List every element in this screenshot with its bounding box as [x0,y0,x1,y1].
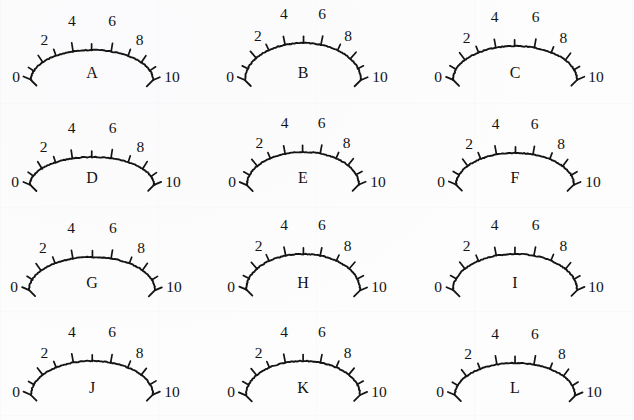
gauge-tick-6 [321,36,323,44]
value-label-6: 6 [319,5,327,22]
value-label-0: 0 [12,383,20,400]
gauge-h[interactable]: 0246810H [211,210,422,315]
value-label-6: 6 [318,114,326,131]
value-label-10: 10 [373,68,389,85]
gauge-tick-2 [252,262,258,268]
value-label-4: 4 [281,114,289,131]
gauge-tick-9 [574,276,580,279]
gauge-tick-3 [478,363,480,369]
gauge-letter-label: I [512,274,517,291]
gauge-tick-4 [71,150,72,158]
value-label-4: 4 [68,12,76,29]
gauge-tick-1 [244,172,250,175]
gauge-dial-j: 0246810J [0,315,211,420]
gauge-g[interactable]: 0246810G [0,210,211,315]
gauge-tick-4 [284,146,286,154]
gauge-tick-7 [128,156,130,162]
gauge-tick-2 [461,370,466,377]
gauge-tick-1 [29,381,35,384]
gauge-dial-e: 0246810E [211,105,422,210]
gauge-b[interactable]: 0246810B [211,0,422,105]
gauge-tick-8 [141,368,146,375]
gauge-tick-1 [450,276,456,279]
value-label-10: 10 [166,278,182,295]
value-label-10: 10 [588,68,604,85]
gauge-dial-a: 0246810A [0,0,211,105]
gauge-c[interactable]: 0246810C [423,0,634,105]
gauge-dial-i: 0246810I [423,210,634,315]
value-label-10: 10 [164,68,180,85]
gauge-letter-label: F [510,169,519,186]
gauge-a[interactable]: 0246810A [0,0,211,105]
gauge-tick-8 [143,263,148,270]
gauge-tick-9 [152,276,158,279]
gauge-tick-7 [338,44,341,50]
value-label-6: 6 [531,8,539,25]
value-label-8: 8 [557,135,565,152]
gauge-tick-7 [130,257,132,263]
gauge-tick-9 [357,171,363,174]
gauge-dial-c: 0246810C [423,0,634,105]
gauge-letter-label: G [86,274,98,291]
gauge-grid: 0246810A0246810B0246810C0246810D0246810E… [0,0,634,420]
value-label-0: 0 [437,173,445,190]
gauge-tick-6 [111,150,112,158]
gauge-tick-2 [38,162,42,169]
gauge-tick-9 [358,66,364,69]
gauge-tick-7 [337,255,340,261]
value-label-4: 4 [281,216,289,233]
gauge-tick-3 [267,255,270,261]
gauge-k[interactable]: 0246810K [211,315,422,420]
gauge-tick-3 [267,44,270,50]
value-label-0: 0 [228,383,236,400]
gauge-tick-4 [495,247,497,255]
gauge-letter-label: E [299,169,309,186]
value-label-10: 10 [371,173,387,190]
gauge-letter-label: J [89,379,95,396]
value-label-0: 0 [229,173,237,190]
value-label-4: 4 [68,323,76,340]
gauge-tick-1 [28,172,33,176]
gauge-tick-3 [476,46,478,52]
gauge-f[interactable]: 0246810F [423,105,634,210]
gauge-tick-2 [459,262,464,269]
gauge-tick-9 [571,172,577,175]
gauge-tick-3 [268,153,271,159]
gauge-tick-2 [38,55,43,62]
value-label-4: 4 [491,115,499,132]
gauge-e[interactable]: 0246810E [211,105,422,210]
value-label-2: 2 [41,344,49,361]
gauge-tick-9 [574,66,580,69]
value-label-0: 0 [227,68,235,85]
gauge-d[interactable]: 0246810D [0,105,211,210]
value-label-6: 6 [108,12,116,29]
gauge-tick-2 [36,264,41,271]
value-label-4: 4 [67,219,75,236]
value-label-2: 2 [254,27,262,44]
value-label-6: 6 [109,119,117,136]
gauge-j[interactable]: 0246810J [0,315,211,420]
value-label-2: 2 [39,239,47,256]
value-label-10: 10 [164,383,180,400]
value-label-10: 10 [372,278,388,295]
value-label-8: 8 [136,31,144,48]
value-label-6: 6 [109,219,117,236]
value-label-6: 6 [318,216,326,233]
gauge-tick-6 [534,247,536,255]
gauge-tick-1 [452,382,458,385]
gauge-tick-9 [358,381,364,384]
value-label-8: 8 [345,27,353,44]
gauge-tick-9 [150,67,155,71]
gauge-l[interactable]: 0246810L [423,315,634,420]
gauge-tick-9 [572,382,578,385]
gauge-dial-d: 0246810D [0,105,211,210]
gauge-tick-2 [252,159,257,166]
gauge-tick-3 [53,257,55,263]
value-label-8: 8 [137,138,145,155]
gauge-i[interactable]: 0246810I [423,210,634,315]
value-label-2: 2 [40,138,48,155]
gauge-tick-9 [151,173,156,177]
value-label-4: 4 [281,323,289,340]
gauge-tick-7 [550,153,552,159]
gauge-tick-4 [495,356,496,364]
